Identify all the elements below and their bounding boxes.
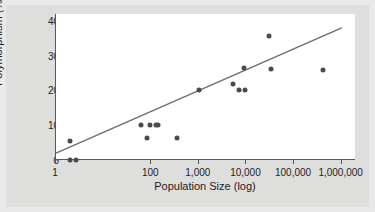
x-axis-tick-label: 10,000 xyxy=(230,167,261,178)
scatter-points-layer xyxy=(56,14,355,159)
figure-container: Polymorphism (%) 010203040 11001,00010,0… xyxy=(0,0,375,212)
scatter-point xyxy=(230,81,235,86)
scatter-point xyxy=(175,136,180,141)
scatter-point xyxy=(242,65,247,70)
x-axis-tick-label: 1,000,000 xyxy=(318,167,363,178)
plot-area xyxy=(55,14,355,160)
x-axis-tick-label: 1,000 xyxy=(185,167,210,178)
scatter-point xyxy=(237,87,242,92)
scatter-point xyxy=(196,87,201,92)
scatter-point xyxy=(138,123,143,128)
x-axis-tick-label: 100 xyxy=(142,167,159,178)
x-axis-tick-label: 100,000 xyxy=(275,167,311,178)
scatter-point xyxy=(156,123,161,128)
x-axis-tick-mark xyxy=(198,160,199,164)
scatter-point xyxy=(148,123,153,128)
x-axis-tick-mark xyxy=(55,160,56,164)
scatter-point xyxy=(269,66,274,71)
y-axis-title: Polymorphism (%) xyxy=(0,0,4,86)
scatter-point xyxy=(243,87,248,92)
x-axis-tick-mark xyxy=(293,160,294,164)
x-axis-title: Population Size (log) xyxy=(55,180,355,192)
x-axis-ticks: 11001,00010,000100,0001,000,000 xyxy=(55,160,355,180)
x-axis-tick-mark xyxy=(150,160,151,164)
scatter-point xyxy=(144,136,149,141)
x-axis-tick-label: 1 xyxy=(52,167,58,178)
scatter-point xyxy=(68,138,73,143)
scatter-point xyxy=(320,67,325,72)
x-axis-tick-mark xyxy=(341,160,342,164)
x-axis-tick-mark xyxy=(245,160,246,164)
scatter-point xyxy=(267,33,272,38)
